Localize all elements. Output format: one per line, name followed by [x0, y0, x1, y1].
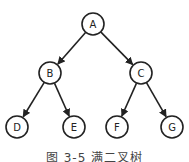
- tree-diagram: ABCDEFG: [0, 0, 189, 162]
- node-G: G: [161, 116, 183, 138]
- node-label: C: [138, 68, 145, 79]
- node-label: D: [13, 122, 21, 133]
- edge-C-G: [146, 83, 166, 117]
- edge-A-B: [58, 32, 86, 64]
- node-B: B: [39, 62, 61, 84]
- node-E: E: [63, 116, 85, 138]
- node-D: D: [6, 116, 28, 138]
- node-label: F: [114, 122, 120, 133]
- node-label: G: [168, 122, 176, 133]
- node-C: C: [130, 62, 152, 84]
- edge-A-C: [101, 32, 133, 65]
- node-F: F: [106, 116, 128, 138]
- node-label: B: [47, 68, 54, 79]
- edge-B-D: [23, 82, 44, 116]
- figure-caption: 图 3-5 满二叉树: [0, 148, 189, 162]
- node-A: A: [82, 13, 104, 35]
- edge-C-F: [122, 83, 137, 116]
- node-label: E: [71, 122, 77, 133]
- tree-nodes: ABCDEFG: [6, 13, 183, 138]
- edge-B-E: [54, 83, 69, 116]
- node-label: A: [90, 19, 97, 30]
